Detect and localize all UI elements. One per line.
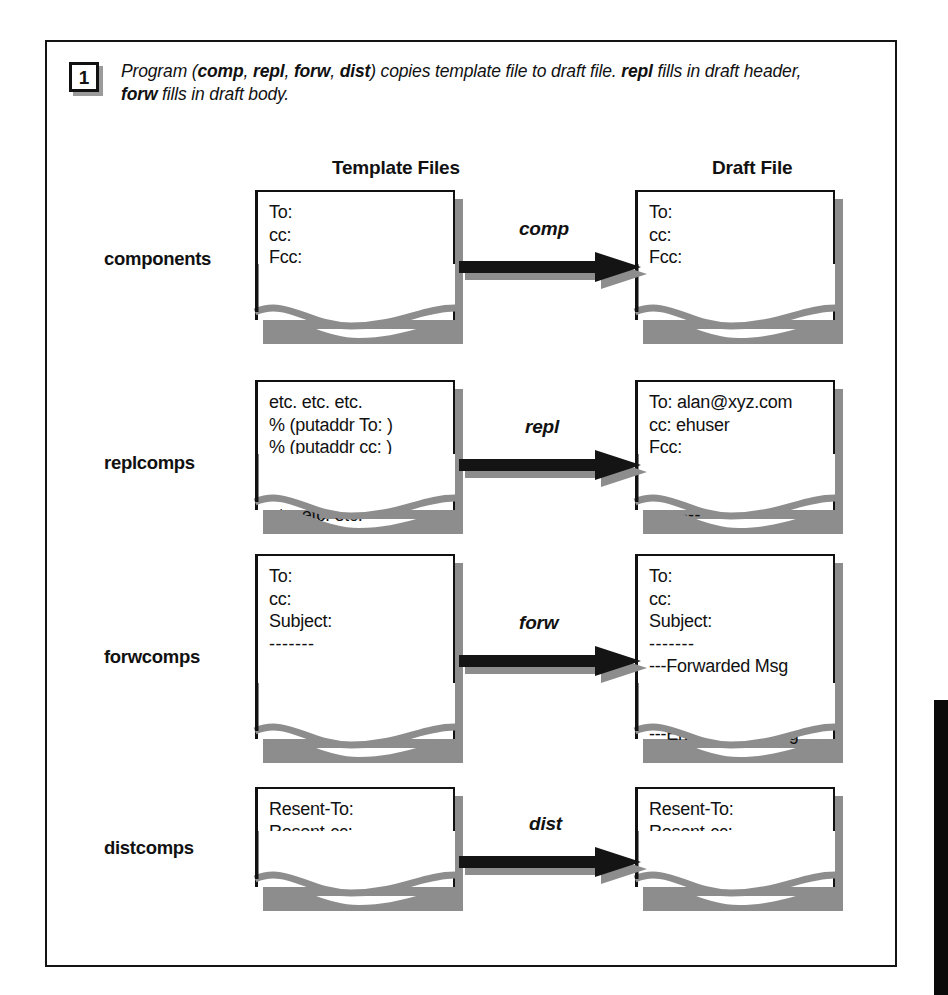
draft-file-box: Resent-To:Resent-cc:------- — [635, 787, 835, 887]
file-line: Subject: — [269, 610, 453, 633]
caption-text-run: , — [330, 61, 339, 81]
template-file-box: etc. etc. etc.% (putaddr To: )% (putaddr… — [255, 380, 455, 510]
caption-text-run: fills in draft body. — [157, 84, 289, 104]
flow-arrow — [459, 450, 641, 480]
template-file-box: To:cc:Subject:------- — [255, 554, 455, 739]
file-line: ------- — [649, 633, 833, 656]
caption-program-name: repl — [253, 61, 285, 81]
template-file-box: To:cc:Fcc:Subject:------- — [255, 190, 455, 320]
flow-arrow — [459, 252, 641, 282]
page-tab-marker — [934, 700, 948, 995]
file-content: To:cc:Subject:------- — [258, 556, 453, 655]
arrow-label-forw: forw — [519, 612, 558, 634]
diagram-row: distcompsResent-To:Resent-cc:-------Rese… — [47, 787, 899, 922]
caption-text: Program (comp, repl, forw, dist) copies … — [121, 60, 821, 107]
file-line: cc: — [649, 588, 833, 611]
file-line: To: — [649, 201, 833, 224]
diagram-row: forwcompsTo:cc:Subject:-------To:cc:Subj… — [47, 554, 899, 779]
column-heading-template-files: Template Files — [332, 157, 460, 179]
caption-text-run: , — [244, 61, 253, 81]
arrow-body — [459, 646, 641, 676]
caption-program-name: repl — [621, 61, 653, 81]
file-line: To: — [269, 201, 453, 224]
draft-file-box: To:cc:Subject:----------Forwarded Msgxxx… — [635, 554, 835, 739]
caption-program-name: comp — [197, 61, 243, 81]
figure-caption: 1 Program (comp, repl, forw, dist) copie… — [69, 60, 869, 107]
caption-text-run: ) copies template file to draft file. — [370, 61, 621, 81]
file-line: cc: — [269, 224, 453, 247]
torn-paper-edge — [255, 304, 467, 346]
file-line: etc. etc. etc. — [269, 391, 453, 414]
arrow-body — [459, 847, 641, 877]
caption-program-name: dist — [340, 61, 371, 81]
torn-paper-edge — [255, 494, 467, 536]
file-line: cc: ehuser — [649, 414, 833, 437]
row-label-replcomps: replcomps — [104, 452, 274, 474]
file-line: Resent-To: — [269, 798, 453, 821]
file-line: To: — [649, 565, 833, 588]
torn-paper-edge — [635, 304, 847, 346]
diagram-row: componentsTo:cc:Fcc:Subject:-------To:cc… — [47, 190, 899, 360]
torn-paper-edge — [255, 871, 467, 913]
figure-frame: 1 Program (comp, repl, forw, dist) copie… — [45, 40, 897, 967]
file-line: Resent-To: — [649, 798, 833, 821]
file-line: To: alan@xyz.com — [649, 391, 833, 414]
arrow-label-comp: comp — [519, 218, 569, 240]
step-number-badge: 1 — [69, 62, 99, 92]
file-line: Subject: — [649, 610, 833, 633]
draft-file-box: To: alan@xyz.comcc: ehuserFcc:Subject: R… — [635, 380, 835, 510]
file-line: % (putaddr To: ) — [269, 414, 453, 437]
flow-arrow — [459, 847, 641, 877]
arrow-body — [459, 252, 641, 282]
row-label-forwcomps: forwcomps — [104, 646, 274, 668]
caption-program-name: forw — [121, 84, 157, 104]
diagram-row: replcompsetc. etc. etc.% (putaddr To: )%… — [47, 380, 899, 550]
file-line: ------- — [269, 633, 453, 656]
flow-arrow — [459, 646, 641, 676]
file-line: cc: — [649, 224, 833, 247]
file-line: ---Forwarded Msg — [649, 655, 833, 678]
row-label-distcomps: distcomps — [104, 837, 274, 859]
caption-program-name: forw — [294, 61, 330, 81]
step-number-label: 1 — [69, 62, 99, 92]
file-line: To: — [269, 565, 453, 588]
template-file-box: Resent-To:Resent-cc:------- — [255, 787, 455, 887]
draft-file-box: To:cc:Fcc:Subject:------- — [635, 190, 835, 320]
file-line: cc: — [269, 588, 453, 611]
row-label-components: components — [104, 248, 274, 270]
arrow-body — [459, 450, 641, 480]
column-heading-draft-file: Draft File — [712, 157, 792, 179]
caption-text-run: fills in draft header, — [653, 61, 801, 81]
torn-paper-edge — [635, 871, 847, 913]
caption-text-run: , — [284, 61, 293, 81]
torn-paper-edge — [635, 723, 847, 765]
arrow-label-repl: repl — [525, 416, 559, 438]
torn-paper-edge — [255, 723, 467, 765]
caption-text-run: Program ( — [121, 61, 197, 81]
torn-paper-edge — [635, 494, 847, 536]
arrow-label-dist: dist — [529, 813, 562, 835]
